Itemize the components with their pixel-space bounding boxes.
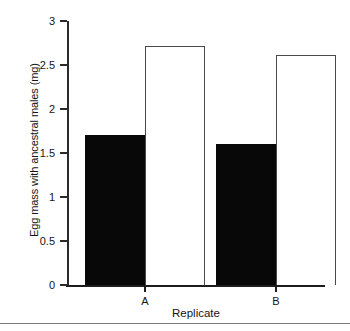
y-tick-label: 1 xyxy=(0,192,55,203)
y-tick-mark xyxy=(60,20,67,22)
y-tick-mark xyxy=(60,284,67,286)
y-tick-label: 2.5 xyxy=(0,60,55,71)
y-tick-mark xyxy=(60,108,67,110)
x-category-label-b: B xyxy=(256,295,296,307)
x-axis-title: Replicate xyxy=(67,307,325,319)
y-tick-label: 1.5 xyxy=(0,148,55,159)
y-tick-label: 0 xyxy=(0,280,55,291)
bar-b-open xyxy=(276,55,336,285)
y-tick-mark xyxy=(60,152,67,154)
bar-a-filled xyxy=(85,135,145,285)
x-category-label-a: A xyxy=(125,295,165,307)
x-tick-mark xyxy=(275,285,277,292)
bar-a-open xyxy=(145,46,205,285)
x-tick-mark xyxy=(144,285,146,292)
y-tick-label: 3 xyxy=(0,16,55,27)
plot-area: 00.511.522.53 AB xyxy=(67,21,325,285)
y-tick-mark xyxy=(60,240,67,242)
footer-divider xyxy=(0,323,350,324)
y-tick-label: 2 xyxy=(0,104,55,115)
x-axis-spine xyxy=(66,285,325,287)
figure-panel: Egg mass with ancestral males (mg) 00.51… xyxy=(0,0,350,331)
y-tick-mark xyxy=(60,64,67,66)
y-tick-mark xyxy=(60,196,67,198)
bar-b-filled xyxy=(216,144,276,285)
y-tick-label: 0.5 xyxy=(0,236,55,247)
y-axis-spine xyxy=(67,21,69,285)
